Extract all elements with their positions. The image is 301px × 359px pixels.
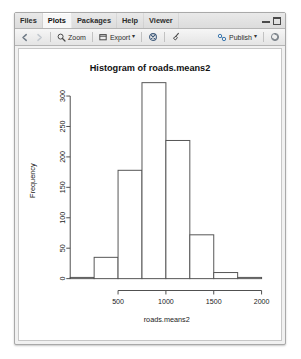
- broom-icon: [171, 32, 181, 42]
- y-axis-tick-label: 250: [59, 120, 67, 132]
- y-axis: 050100150200250300: [59, 90, 70, 281]
- forward-button[interactable]: [34, 33, 45, 42]
- histogram-bar: [214, 273, 238, 279]
- histogram-bar: [190, 235, 214, 279]
- toolbar-separator-2: [92, 32, 93, 42]
- y-axis-tick-label: 150: [59, 181, 67, 193]
- tab-help[interactable]: Help: [117, 13, 144, 28]
- x-axis: 500100015002000: [112, 291, 269, 307]
- export-button-label: Export: [110, 34, 130, 41]
- x-axis-tick-label: 1000: [158, 298, 174, 306]
- histogram-bar: [142, 83, 166, 279]
- remove-plot-button[interactable]: [147, 32, 159, 42]
- tab-plots-label: Plots: [48, 17, 66, 24]
- refresh-button[interactable]: [269, 32, 281, 42]
- histogram-bars: [70, 83, 261, 279]
- export-caret-icon: ▾: [132, 34, 135, 40]
- y-axis-tick-label: 50: [59, 244, 67, 252]
- tab-files[interactable]: Files: [15, 13, 43, 28]
- y-axis-tick-label: 300: [59, 90, 67, 102]
- histogram-bar: [70, 277, 94, 278]
- zoom-button-label: Zoom: [68, 34, 86, 41]
- histogram-bar: [118, 170, 142, 278]
- tab-files-label: Files: [20, 17, 37, 24]
- x-axis-tick-label: 500: [112, 298, 124, 306]
- y-axis-tick-label: 100: [59, 212, 67, 224]
- publish-button-label: Publish: [229, 34, 252, 41]
- tab-bar-filler: [179, 13, 258, 28]
- x-axis-label: roads.means2: [144, 315, 190, 324]
- x-axis-tick-label: 1500: [206, 298, 222, 306]
- tab-viewer[interactable]: Viewer: [144, 13, 179, 28]
- window-controls: [258, 13, 285, 28]
- x-axis-tick-label: 2000: [254, 298, 270, 306]
- remove-plot-icon: [148, 32, 158, 42]
- y-axis-label: Frequency: [28, 163, 37, 198]
- toolbar-separator-5: [263, 32, 264, 42]
- histogram-bar: [94, 257, 118, 278]
- clear-all-plots-button[interactable]: [170, 32, 182, 42]
- chart-title: Histogram of roads.means2: [90, 63, 211, 73]
- left-arrow-icon: [20, 33, 29, 42]
- publish-icon: [217, 33, 227, 42]
- plots-pane: Files Plots Packages Help Viewer: [14, 12, 286, 345]
- histogram-plot: Histogram of roads.means2 05010015020025…: [19, 49, 281, 340]
- tab-packages[interactable]: Packages: [72, 13, 117, 28]
- zoom-button[interactable]: Zoom: [56, 33, 87, 42]
- refresh-icon: [270, 32, 280, 42]
- magnifier-icon: [57, 33, 66, 42]
- tab-packages-label: Packages: [77, 17, 111, 24]
- tab-help-label: Help: [122, 17, 138, 24]
- maximize-button[interactable]: [273, 17, 281, 25]
- toolbar-separator-1: [50, 32, 51, 42]
- minimize-button[interactable]: [262, 17, 270, 25]
- pane-tab-bar: Files Plots Packages Help Viewer: [15, 13, 285, 29]
- export-button[interactable]: Export ▾: [98, 33, 136, 42]
- publish-button[interactable]: Publish ▾: [216, 33, 258, 42]
- toolbar-separator-4: [164, 32, 165, 42]
- y-axis-tick-label: 200: [59, 151, 67, 163]
- tab-viewer-label: Viewer: [149, 17, 173, 24]
- plot-canvas[interactable]: Histogram of roads.means2 05010015020025…: [18, 48, 282, 341]
- tab-plots[interactable]: Plots: [43, 13, 72, 28]
- histogram-bar: [238, 277, 262, 278]
- publish-caret-icon: ▾: [254, 34, 257, 40]
- export-icon: [99, 33, 108, 42]
- histogram-bar: [166, 140, 190, 278]
- back-button[interactable]: [19, 33, 30, 42]
- plots-toolbar: Zoom Export ▾: [15, 29, 285, 46]
- y-axis-tick-label: 0: [59, 277, 67, 281]
- right-arrow-icon: [35, 33, 44, 42]
- toolbar-separator-3: [141, 32, 142, 42]
